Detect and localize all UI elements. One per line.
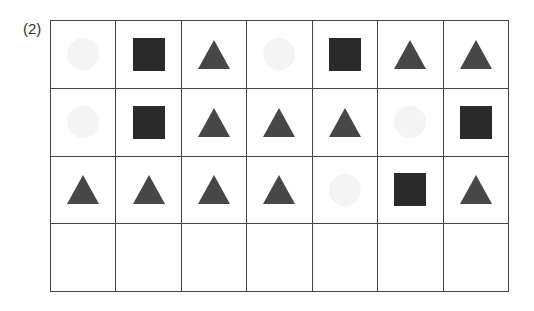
grid-cell [51,157,116,225]
grid-cell [51,21,116,89]
grid-cell [313,89,378,157]
grid-cell [182,89,247,157]
grid-cell [378,224,443,292]
grid-cell [444,224,509,292]
grid-cell [182,157,247,225]
grid-cell [116,224,181,292]
circle-icon [329,174,361,206]
shape-grid [50,20,509,292]
triangle-icon [198,108,230,137]
grid-cell [116,21,181,89]
circle-icon [394,106,426,138]
grid-cell [378,157,443,225]
grid-cell [313,157,378,225]
grid-cell [51,224,116,292]
circle-icon [67,106,99,138]
triangle-icon [329,108,361,137]
triangle-icon [198,40,230,69]
triangle-icon [460,40,492,69]
grid-cell [313,224,378,292]
grid-cell [444,157,509,225]
grid-cell [378,21,443,89]
triangle-icon [460,175,492,204]
grid-cell [247,157,312,225]
grid-cell [313,21,378,89]
triangle-icon [394,40,426,69]
square-icon [460,106,492,139]
problem-number: (2) [23,20,41,37]
grid-cell [247,224,312,292]
grid-cell [51,89,116,157]
grid-cell [444,21,509,89]
triangle-icon [263,175,295,204]
grid-cell [444,89,509,157]
triangle-icon [67,175,99,204]
triangle-icon [133,175,165,204]
square-icon [133,106,165,139]
circle-icon [263,38,295,70]
square-icon [329,38,361,71]
grid-cell [247,89,312,157]
circle-icon [67,38,99,70]
grid-cell [116,89,181,157]
grid-cell [378,89,443,157]
triangle-icon [263,108,295,137]
grid-cell [182,224,247,292]
square-icon [394,173,426,206]
grid-cell [182,21,247,89]
grid-cell [247,21,312,89]
triangle-icon [198,175,230,204]
grid-cell [116,157,181,225]
square-icon [133,38,165,71]
